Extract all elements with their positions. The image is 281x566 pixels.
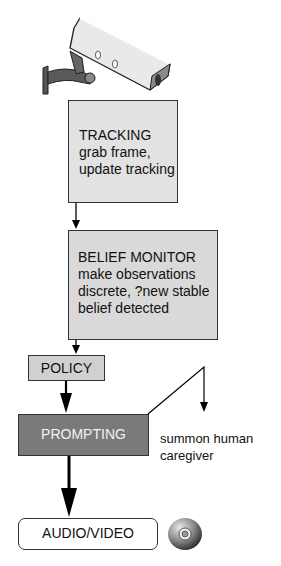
policy-title: POLICY [41, 360, 92, 376]
audio-video-title: AUDIO/VIDEO [42, 525, 134, 541]
arrow-policy-to-prompting [60, 381, 72, 413]
belief-monitor-line-2: discrete, ?new stable [78, 283, 217, 300]
arrow-tracking-to-belief [72, 203, 80, 229]
audio-video-node: AUDIO/VIDEO [18, 518, 158, 550]
tracking-title: TRACKING [79, 127, 177, 144]
prompting-node: PROMPTING [18, 414, 149, 456]
tracking-line-1: grab frame, [79, 144, 177, 161]
arrow-belief-to-policy [72, 340, 80, 354]
caregiver-line-2: caregiver [160, 447, 253, 464]
security-camera-icon [40, 6, 180, 96]
cd-disc-icon [167, 517, 203, 551]
tracking-line-2: update tracking [79, 161, 177, 178]
prompting-title: PROMPTING [41, 426, 126, 442]
policy-node: POLICY [28, 355, 105, 381]
caregiver-label: summon human caregiver [160, 430, 253, 464]
belief-monitor-title: BELIEF MONITOR [78, 249, 217, 266]
tracking-node: TRACKING grab frame, update tracking [68, 100, 178, 203]
caregiver-line-1: summon human [160, 430, 253, 447]
belief-monitor-node: BELIEF MONITOR make observations discret… [68, 230, 218, 340]
arrow-prompting-to-audio-video [61, 456, 77, 517]
belief-monitor-line-3: belief detected [78, 300, 217, 317]
belief-monitor-line-1: make observations [78, 266, 217, 283]
arrow-prompting-to-caregiver [148, 367, 208, 414]
